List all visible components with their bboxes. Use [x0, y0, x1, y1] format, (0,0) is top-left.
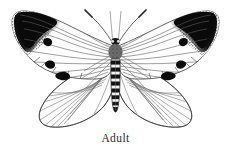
- abdomen: [111, 59, 120, 112]
- thorax-texture: [109, 44, 123, 60]
- left-eye: [111, 40, 114, 43]
- butterfly-illustration: [0, 0, 231, 132]
- figure-root: Adult: [0, 0, 231, 156]
- right-eye: [117, 40, 120, 43]
- figure-caption: Adult: [0, 131, 231, 145]
